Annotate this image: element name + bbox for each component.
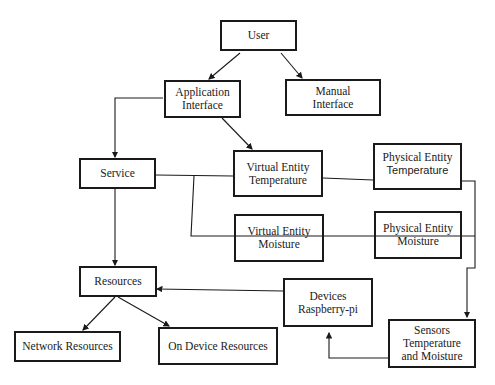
- edge-app-vtemp: [222, 118, 252, 149]
- node-service: Service: [79, 158, 156, 189]
- node-label: Virtual Entity: [248, 225, 311, 238]
- edge-ptemp-sensors: [461, 181, 475, 317]
- node-label: On Device Resources: [168, 340, 268, 353]
- node-label: Network Resources: [22, 340, 112, 353]
- edge-service-vmoist: [191, 176, 234, 236]
- edge-vtemp-ptemp: [323, 178, 373, 180]
- node-physical-entity-moisture: Physical Entity Moisture: [374, 211, 462, 259]
- node-devices-raspberry-pi: Devices Raspberry-pi: [283, 278, 373, 327]
- node-virtual-entity-temperature: Virtual Entity Temperature: [233, 150, 323, 197]
- edge-user-manual: [281, 53, 302, 78]
- edge-resources-network: [83, 297, 115, 330]
- node-manual-interface: Manual Interface: [285, 79, 381, 116]
- edge-devices-resources: [157, 289, 283, 291]
- node-resources: Resources: [79, 266, 157, 297]
- node-label: Sensors: [414, 324, 450, 337]
- edge-resources-ondevice: [118, 297, 169, 326]
- edge-app-service: [115, 98, 163, 157]
- node-label: Devices: [309, 290, 346, 303]
- node-on-device-resources: On Device Resources: [158, 327, 278, 365]
- node-label: Service: [100, 167, 134, 180]
- node-label: Interface: [182, 99, 223, 112]
- node-application-interface: Application Interface: [164, 80, 241, 118]
- node-label: Physical Entity: [383, 151, 453, 164]
- node-physical-entity-temperature: Physical Entity Temperature: [373, 143, 462, 190]
- node-label: Moisture: [397, 235, 439, 248]
- node-label: Temperature: [387, 164, 449, 177]
- node-label: Manual: [315, 85, 350, 98]
- edge-user-app: [209, 53, 240, 79]
- edge-sensors-devices: [329, 333, 388, 358]
- node-label: Moisture: [258, 238, 300, 251]
- node-label: Temperature: [249, 174, 307, 187]
- node-label: Application: [175, 86, 229, 99]
- node-sensors-temperature-moisture: Sensors Temperature and Moisture: [388, 319, 476, 368]
- node-label: and Moisture: [401, 350, 462, 363]
- node-label: Interface: [313, 98, 354, 111]
- node-label: User: [248, 29, 270, 42]
- node-label: Resources: [94, 275, 141, 288]
- node-label: Physical Entity: [383, 222, 453, 235]
- node-label: Temperature: [403, 337, 461, 350]
- node-virtual-entity-moisture: Virtual Entity Moisture: [234, 214, 324, 262]
- edge-service-vtemp: [156, 175, 233, 176]
- node-network-resources: Network Resources: [14, 331, 121, 362]
- node-label: Raspberry-pi: [298, 303, 358, 316]
- node-label: Virtual Entity: [247, 161, 310, 174]
- node-user: User: [220, 20, 297, 51]
